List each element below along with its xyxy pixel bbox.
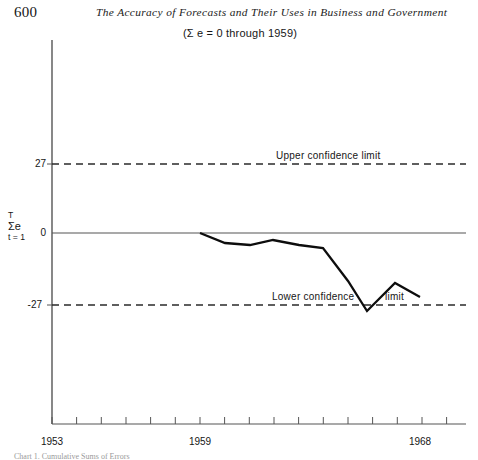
- x-axis-ticks: [52, 417, 447, 424]
- plot-area: [0, 0, 478, 460]
- figure-caption: Chart 1. Cumulative Sums of Errors: [14, 452, 130, 460]
- data-series-line: [200, 233, 420, 311]
- chart-figure: (Σ e = 0 through 1959) T Σe t = 1 27 0 -…: [0, 0, 478, 460]
- y-axis-ticks: [47, 164, 52, 305]
